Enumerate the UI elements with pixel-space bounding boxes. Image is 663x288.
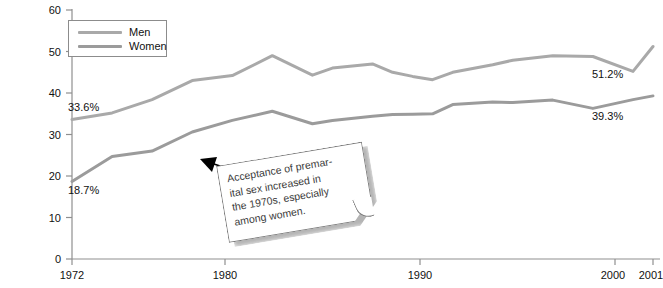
- y-tick-label-10: 10: [49, 212, 61, 224]
- x-tick-label-1980: 1980: [213, 269, 237, 281]
- value-label-men-2001: 51.2%: [592, 68, 623, 80]
- x-tick-marks: [72, 259, 653, 265]
- y-tick-label-30: 30: [49, 129, 61, 141]
- y-tick-label-50: 50: [49, 46, 61, 58]
- y-tick-label-40: 40: [49, 87, 61, 99]
- y-tick-label-0: 0: [55, 253, 61, 265]
- x-tick-label-2001: 2001: [639, 269, 663, 281]
- legend-item-men: Men: [78, 26, 150, 38]
- series-line-men: [72, 47, 653, 120]
- value-label-women-1972: 18.7%: [68, 184, 99, 196]
- chart-legend: Men Women: [68, 20, 167, 57]
- y-tick-label-60: 60: [49, 4, 61, 16]
- legend-swatch-women: [78, 45, 122, 48]
- legend-swatch-men: [78, 31, 122, 34]
- chart-container: 60 50 40 30 20 10 0 1972 1980 1990 2000 …: [0, 0, 663, 288]
- legend-label-men: Men: [129, 27, 150, 38]
- x-tick-label-1972: 1972: [60, 269, 84, 281]
- legend-item-women: Women: [78, 40, 167, 52]
- value-label-men-1972: 33.6%: [68, 101, 99, 113]
- legend-label-women: Women: [129, 41, 167, 52]
- x-tick-label-2000: 2000: [601, 269, 625, 281]
- y-tick-label-20: 20: [49, 170, 61, 182]
- value-label-women-2001: 39.3%: [592, 110, 623, 122]
- x-tick-label-1990: 1990: [408, 269, 432, 281]
